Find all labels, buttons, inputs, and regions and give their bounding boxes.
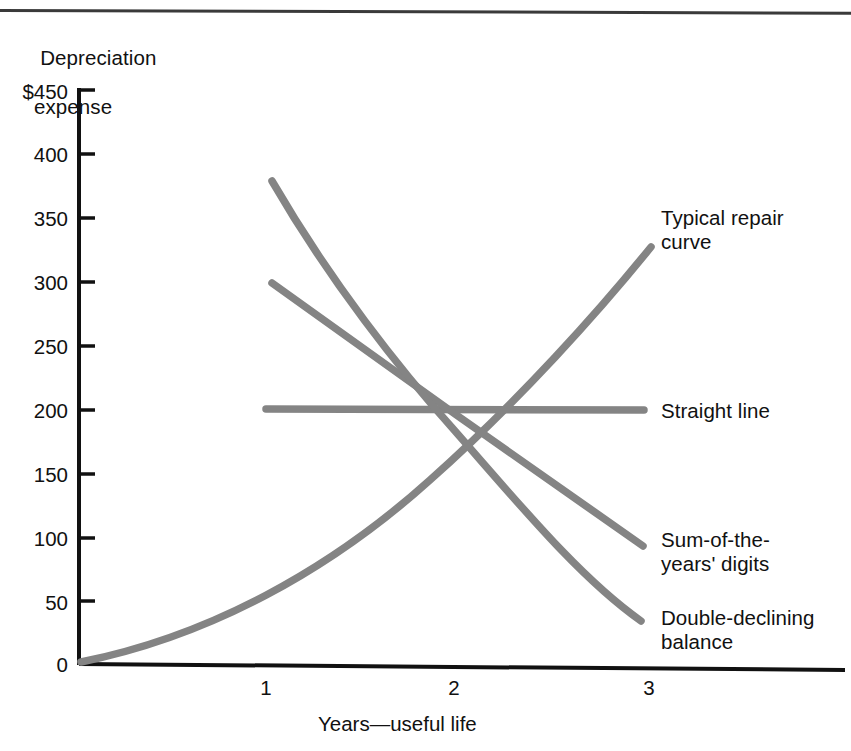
series-label-sum-of-the-years-digits: Sum-of-the- years' digits bbox=[661, 528, 770, 576]
data-series-group bbox=[81, 181, 651, 662]
x-axis-line bbox=[79, 664, 845, 670]
y-tick-marks bbox=[79, 90, 95, 601]
series-label-typical-repair-curve: Typical repair curve bbox=[661, 206, 784, 254]
series-label-sum-of-the-years-digits-line1: Sum-of-the- bbox=[661, 528, 770, 552]
series-label-straight-line: Straight line bbox=[661, 399, 770, 423]
series-label-typical-repair-curve-line2: curve bbox=[661, 230, 784, 254]
series-label-double-declining-balance-line2: balance bbox=[661, 630, 815, 654]
series-label-sum-of-the-years-digits-line2: years' digits bbox=[661, 552, 770, 576]
series-label-double-declining-balance-line1: Double-declining bbox=[661, 606, 815, 630]
series-line-typical-repair-curve bbox=[81, 247, 651, 662]
chart-page: Depreciation expense $450 400 350 300 25… bbox=[0, 0, 851, 751]
series-label-double-declining-balance: Double-declining balance bbox=[661, 606, 815, 654]
series-label-typical-repair-curve-line1: Typical repair bbox=[661, 206, 784, 230]
axis-lines bbox=[79, 88, 845, 670]
series-label-straight-line-line1: Straight line bbox=[661, 399, 770, 423]
